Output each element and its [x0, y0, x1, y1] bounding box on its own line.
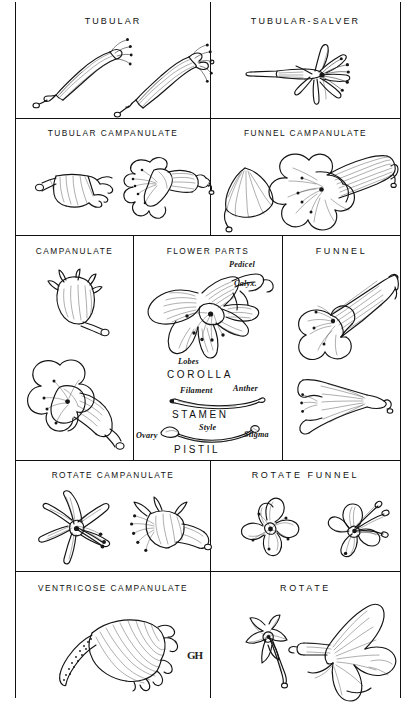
- figure-stamen-diagram: [168, 395, 266, 409]
- label-pistil: PISTIL: [174, 444, 220, 455]
- panel-funnel-campanulate: FUNNEL CAMPANULATE: [211, 118, 400, 235]
- label-lobes: Lobes: [178, 357, 199, 366]
- frame-border-right: [400, 2, 401, 698]
- panel-rotate-campanulate: ROTATE CAMPANULATE: [16, 460, 210, 571]
- figure-rotate-funnel-oblique-view: [319, 486, 397, 566]
- panel-title-rotate: ROTATE: [211, 583, 400, 593]
- label-anther: Anther: [233, 384, 258, 393]
- panel-title-funnel: FUNNEL: [283, 246, 400, 256]
- panel-title-ventricose-campanulate: VENTRICOSE CAMPANULATE: [16, 583, 210, 593]
- figure-ventricose-campanulate-side-view: [58, 605, 188, 691]
- artist-signature: GH: [187, 649, 202, 661]
- figure-funnel-campanulate-large-oblique-view: [255, 144, 399, 236]
- panel-tubular-salver: TUBULAR-SALVER: [211, 2, 400, 118]
- figure-rotate-campanulate-side-view: [120, 496, 212, 566]
- panel-title-funnel-campanulate: FUNNEL CAMPANULATE: [211, 128, 400, 138]
- figure-salverform-corolla-with-long-tube-and-flat-limb: [243, 42, 373, 112]
- panel-flower-parts: FLOWER PARTS: [134, 235, 282, 460]
- panel-rotate-funnel: ROTATE FUNNEL: [211, 460, 400, 571]
- panel-tubular-campanulate: TUBULAR CAMPANULATE: [16, 118, 210, 235]
- panel-title-rotate-funnel: ROTATE FUNNEL: [211, 470, 400, 480]
- figure-rotate-corolla-large-side-view: [287, 601, 399, 705]
- panel-campanulate: CAMPANULATE: [16, 235, 133, 460]
- panel-title-tubular-salver: TUBULAR-SALVER: [211, 16, 400, 26]
- figure-dissected-flower-corolla: [136, 263, 282, 371]
- panel-funnel: FUNNEL: [283, 235, 400, 460]
- panel-title-flower-parts: FLOWER PARTS: [134, 246, 282, 256]
- figure-funnelform-corolla-oblique-view: [285, 263, 399, 373]
- figure-tubular-campanulate-side-view: [30, 164, 116, 216]
- panel-rotate: ROTATE: [211, 571, 400, 698]
- label-calyx: Calyx.: [234, 279, 257, 288]
- label-filament: Filament: [180, 386, 213, 395]
- panel-title-rotate-campanulate: ROTATE CAMPANULATE: [16, 470, 210, 480]
- panel-title-campanulate: CAMPANULATE: [16, 246, 133, 256]
- label-stamen: STAMEN: [172, 409, 229, 420]
- panel-ventricose-campanulate: VENTRICOSE CAMPANULATE: [16, 571, 210, 698]
- label-ovary: Ovary: [136, 431, 157, 440]
- figure-tubular-campanulate-oblique-face-view: [110, 150, 214, 226]
- label-corolla: COROLLA: [167, 369, 233, 380]
- figure-campanulate-bell-side-view: [38, 269, 124, 341]
- figure-pistil-diagram: [156, 423, 264, 445]
- label-pedicel: Pedicel: [229, 260, 255, 269]
- figure-rotate-campanulate-face-view: [28, 488, 124, 568]
- figure-rotate-funnel-face-view: [229, 492, 309, 564]
- panel-title-tubular: TUBULAR: [16, 16, 210, 26]
- figure-campanulate-open-oblique-view: [20, 343, 132, 455]
- panel-title-tubular-campanulate: TUBULAR CAMPANULATE: [16, 128, 210, 138]
- figure-funnelform-corolla-side-view: [297, 373, 393, 441]
- panel-tubular: TUBULAR: [16, 2, 210, 118]
- figure-tubular-corolla-with-exserted-stamens: [114, 44, 214, 118]
